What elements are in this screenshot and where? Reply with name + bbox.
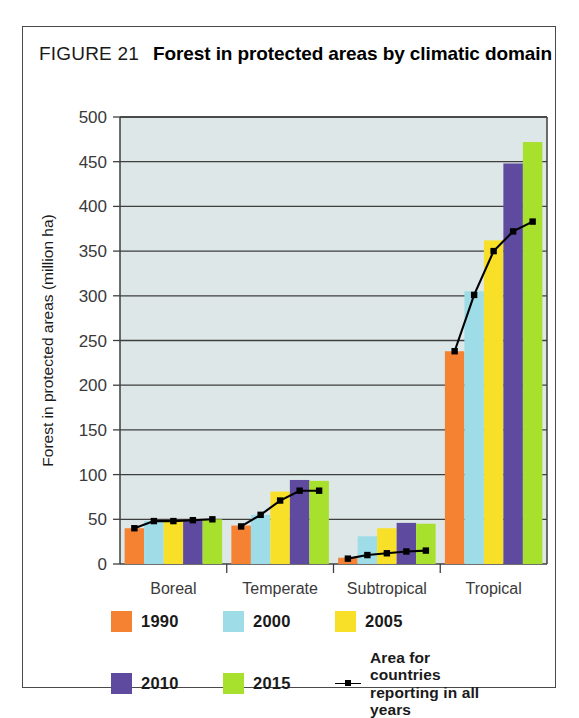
legend-entry-line-series: Area for countries reporting in all year… bbox=[335, 649, 495, 718]
y-axis-tick-label: 300 bbox=[79, 287, 107, 306]
line-series-marker bbox=[451, 348, 457, 354]
y-axis-tick-label: 100 bbox=[79, 466, 107, 485]
legend-entry-2015: 2015 bbox=[223, 673, 335, 694]
y-axis-tick-label: 350 bbox=[79, 242, 107, 261]
bar-chart: 050100150200250300350400450500BorealTemp… bbox=[23, 83, 557, 623]
line-series-marker bbox=[131, 525, 137, 531]
x-axis-category-label: Boreal bbox=[150, 580, 196, 597]
y-axis-title: Forest in protected areas (million ha) bbox=[39, 214, 56, 466]
line-series-marker bbox=[345, 555, 351, 561]
legend-label-2010: 2010 bbox=[141, 674, 179, 693]
legend-entry-1990: 1990 bbox=[111, 611, 223, 632]
line-series-marker bbox=[490, 248, 496, 254]
legend-label-2000: 2000 bbox=[253, 612, 291, 631]
line-series-marker bbox=[384, 550, 390, 556]
y-axis-tick-label: 400 bbox=[79, 197, 107, 216]
line-series-marker bbox=[190, 517, 196, 523]
legend-label-line-series: Area for countries reporting in all year… bbox=[370, 649, 495, 718]
line-series-marker bbox=[296, 487, 302, 493]
legend-entry-2005: 2005 bbox=[335, 611, 495, 632]
line-series-marker bbox=[423, 547, 429, 553]
line-series-marker bbox=[316, 487, 322, 493]
line-series-marker bbox=[277, 497, 283, 503]
legend-entry-2010: 2010 bbox=[111, 673, 223, 694]
figure-title: Forest in protected areas by climatic do… bbox=[153, 43, 552, 65]
line-series-marker bbox=[238, 523, 244, 529]
bar-tropical-2000 bbox=[464, 291, 484, 564]
legend-swatch-2000 bbox=[223, 611, 244, 632]
legend-entry-2000: 2000 bbox=[223, 611, 335, 632]
x-axis-category-label: Subtropical bbox=[347, 580, 427, 597]
bar-subtropical-2015 bbox=[416, 524, 436, 564]
line-series-marker bbox=[529, 218, 535, 224]
bar-tropical-1990 bbox=[445, 351, 465, 564]
bar-boreal-2015 bbox=[203, 519, 223, 564]
legend-row-1: 1990 2000 2005 bbox=[111, 611, 495, 632]
figure-header: FIGURE 21 Forest in protected areas by c… bbox=[39, 43, 552, 65]
line-series-marker bbox=[364, 552, 370, 558]
legend-swatch-2010 bbox=[111, 673, 132, 694]
line-series-marker bbox=[151, 518, 157, 524]
line-series-marker bbox=[257, 512, 263, 518]
line-series-marker bbox=[170, 518, 176, 524]
legend-label-2015: 2015 bbox=[253, 674, 291, 693]
legend-row-2: 2010 2015 Area for countries reporting i… bbox=[111, 649, 495, 718]
y-axis-tick-label: 250 bbox=[79, 332, 107, 351]
bar-boreal-2010 bbox=[183, 520, 203, 564]
line-series-marker bbox=[510, 228, 516, 234]
bar-boreal-1990 bbox=[125, 528, 145, 564]
bar-subtropical-2005 bbox=[377, 528, 397, 564]
chart-plot-area: 050100150200250300350400450500BorealTemp… bbox=[23, 83, 557, 623]
bar-tropical-2005 bbox=[484, 240, 504, 564]
y-axis-tick-label: 450 bbox=[79, 153, 107, 172]
legend-line-marker-icon bbox=[335, 678, 361, 690]
y-axis-tick-label: 200 bbox=[79, 376, 107, 395]
x-axis-category-label: Tropical bbox=[465, 580, 521, 597]
bar-subtropical-2000 bbox=[358, 536, 378, 564]
figure-card: FIGURE 21 Forest in protected areas by c… bbox=[22, 26, 556, 688]
line-series-marker bbox=[403, 548, 409, 554]
chart-legend: 1990 2000 2005 2010 2015 bbox=[23, 605, 557, 685]
legend-label-2005: 2005 bbox=[365, 612, 403, 631]
legend-label-1990: 1990 bbox=[141, 612, 179, 631]
bar-subtropical-2010 bbox=[397, 523, 417, 564]
legend-swatch-1990 bbox=[111, 611, 132, 632]
figure-number: FIGURE 21 bbox=[39, 43, 139, 65]
y-axis-tick-label: 150 bbox=[79, 421, 107, 440]
bar-boreal-2000 bbox=[144, 521, 164, 564]
y-axis-tick-label: 50 bbox=[88, 510, 107, 529]
y-axis-tick-label: 500 bbox=[79, 108, 107, 127]
line-series-marker bbox=[471, 292, 477, 298]
legend-swatch-2015 bbox=[223, 673, 244, 694]
legend-swatch-2005 bbox=[335, 611, 356, 632]
bar-temperate-2000 bbox=[251, 515, 271, 564]
bar-boreal-2005 bbox=[164, 521, 184, 564]
bar-temperate-1990 bbox=[231, 526, 251, 564]
y-axis-tick-label: 0 bbox=[98, 555, 107, 574]
x-axis-category-label: Temperate bbox=[242, 580, 318, 597]
line-series-marker bbox=[209, 516, 215, 522]
bar-tropical-2015 bbox=[523, 142, 543, 564]
bar-tropical-2010 bbox=[503, 163, 523, 564]
